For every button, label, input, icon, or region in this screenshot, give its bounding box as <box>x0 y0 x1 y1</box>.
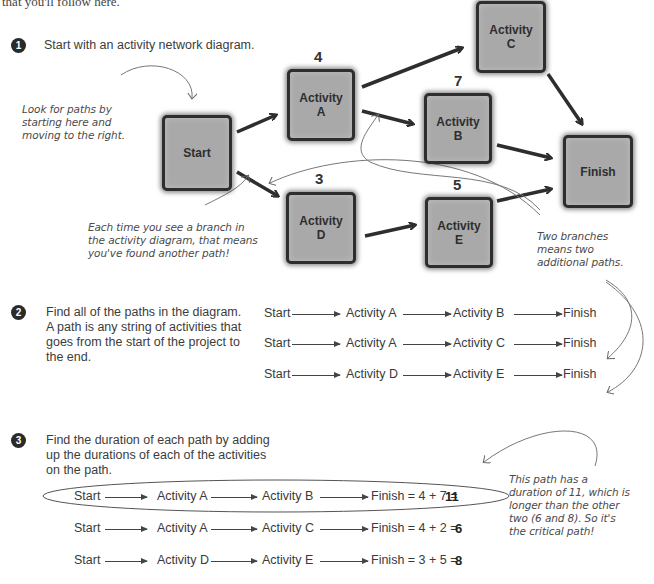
node-activity-d: Activity D <box>286 192 356 264</box>
node-finish-label: Finish <box>580 165 615 179</box>
arrow-icon <box>211 561 257 562</box>
arrow-icon <box>403 375 451 376</box>
duration-a: 4 <box>314 48 322 65</box>
node-activity-d-label: Activity D <box>299 214 342 242</box>
path-node: Activity A <box>346 306 397 320</box>
arrow-icon <box>292 375 340 376</box>
path-node: Start <box>74 553 100 567</box>
path-node: Activity E <box>262 553 313 567</box>
arrow-icon <box>105 497 147 498</box>
duration-d: 3 <box>315 170 323 187</box>
node-start-label: Start <box>183 146 210 160</box>
arrow-icon <box>403 344 451 345</box>
arrow-icon <box>211 529 257 530</box>
duration-e: 5 <box>453 176 461 193</box>
arrow-icon <box>320 561 368 562</box>
arrow-icon <box>105 561 147 562</box>
arrow-icon <box>105 529 147 530</box>
node-activity-a-label: Activity A <box>299 91 342 119</box>
node-activity-b: Activity B <box>424 93 492 164</box>
annotation-look-for-paths: Look for paths by starting here and movi… <box>22 103 125 142</box>
node-activity-c: Activity C <box>476 1 546 73</box>
path-total: 6 <box>455 521 462 536</box>
arrow-icon <box>403 314 451 315</box>
path-node: Finish <box>563 306 596 320</box>
path-node: Finish <box>563 367 596 381</box>
path-total: 8 <box>455 553 462 568</box>
path-node: Activity B <box>262 489 313 503</box>
arrow-icon <box>211 497 257 498</box>
path-node: Activity A <box>157 521 208 535</box>
duration-row-3: Start Activity D Activity E Finish = 3 +… <box>0 553 654 569</box>
node-finish: Finish <box>563 135 633 208</box>
path-total: 11 <box>445 489 459 504</box>
path-row-2: Start Activity A Activity C Finish <box>0 336 654 352</box>
arrow-icon <box>292 344 340 345</box>
node-activity-b-label: Activity B <box>436 115 479 143</box>
finish-expression: Finish = 3 + 5 = <box>371 553 458 567</box>
path-node: Activity D <box>157 553 209 567</box>
path-node: Start <box>264 306 290 320</box>
intro-text: that you'll follow here. <box>2 0 120 10</box>
finish-expression: Finish = 4 + 2 = <box>371 521 458 535</box>
path-node: Start <box>264 336 290 350</box>
arrow-icon <box>514 314 562 315</box>
arrow-icon <box>514 375 562 376</box>
path-node: Activity C <box>262 521 314 535</box>
step-1-badge: 1 <box>11 38 26 53</box>
node-activity-c-label: Activity C <box>489 23 532 51</box>
path-row-1: Start Activity A Activity B Finish <box>0 306 654 322</box>
arrow-icon <box>292 314 340 315</box>
duration-row-critical: Start Activity A Activity B Finish = 4 +… <box>0 489 654 505</box>
node-activity-e: Activity E <box>425 197 493 268</box>
step-3-text: Find the duration of each path by adding… <box>46 433 271 478</box>
path-node: Activity E <box>453 367 504 381</box>
path-row-3: Start Activity D Activity E Finish <box>0 367 654 383</box>
node-activity-a: Activity A <box>287 69 355 141</box>
step-3-badge: 3 <box>11 433 26 448</box>
path-node: Activity A <box>346 336 397 350</box>
duration-row-2: Start Activity A Activity C Finish = 4 +… <box>0 521 654 537</box>
path-node: Activity D <box>346 367 398 381</box>
path-node: Start <box>74 489 100 503</box>
path-node: Activity C <box>453 336 505 350</box>
step-1-text: Start with an activity network diagram. <box>44 38 255 53</box>
arrow-icon <box>320 497 368 498</box>
arrow-icon <box>514 344 562 345</box>
path-node: Activity B <box>453 306 504 320</box>
arrow-icon <box>320 529 368 530</box>
annotation-each-branch: Each time you see a branch in the activi… <box>88 221 258 260</box>
path-node: Start <box>264 367 290 381</box>
path-node: Finish <box>563 336 596 350</box>
path-node: Activity A <box>157 489 208 503</box>
path-node: Start <box>74 521 100 535</box>
duration-b: 7 <box>454 72 462 89</box>
node-start: Start <box>162 115 232 191</box>
node-activity-e-label: Activity E <box>437 219 480 247</box>
annotation-two-branches: Two branches means two additional paths. <box>537 230 623 269</box>
